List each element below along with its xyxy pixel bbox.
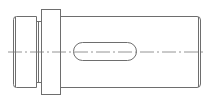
keyway-slot	[74, 43, 137, 61]
shaft-drawing	[0, 0, 211, 104]
